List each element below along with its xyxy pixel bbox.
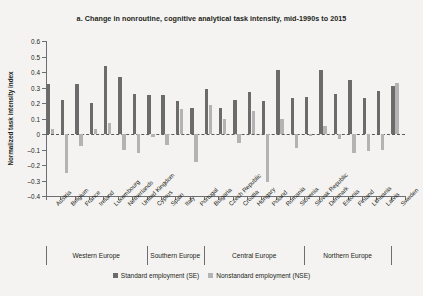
y-tick-label: –0.4 bbox=[28, 193, 40, 200]
bar-group bbox=[247, 41, 261, 196]
region-separator bbox=[391, 246, 392, 265]
y-tick-label: 0.6 bbox=[31, 38, 40, 45]
legend-label: Standard employment (SE) bbox=[121, 272, 199, 279]
bar bbox=[348, 80, 351, 134]
bar bbox=[90, 103, 93, 134]
region-label: Central Europe bbox=[204, 252, 305, 259]
bar bbox=[319, 70, 322, 134]
plot-area: 0.60.50.40.30.20.10–0.1–0.2–0.3–0.4 bbox=[46, 41, 405, 196]
region-label: Southern Europe bbox=[147, 252, 204, 259]
bar-group bbox=[362, 41, 376, 196]
bar bbox=[323, 126, 326, 134]
bar bbox=[137, 134, 140, 153]
bar bbox=[151, 134, 154, 137]
bar-group bbox=[376, 41, 390, 196]
bar bbox=[219, 108, 222, 134]
legend-item: Standard employment (SE) bbox=[113, 272, 199, 279]
bar bbox=[176, 101, 179, 134]
bar bbox=[338, 134, 341, 139]
bar bbox=[133, 94, 136, 134]
bar bbox=[205, 89, 208, 134]
bar bbox=[363, 98, 366, 134]
bar bbox=[118, 77, 121, 134]
y-tick-label: 0.4 bbox=[31, 69, 40, 76]
bar bbox=[367, 134, 370, 151]
bar-group bbox=[290, 41, 304, 196]
bar-group bbox=[391, 41, 405, 196]
bar bbox=[280, 119, 283, 135]
bar-group bbox=[75, 41, 89, 196]
bar bbox=[237, 134, 240, 143]
bar bbox=[194, 134, 197, 162]
bar bbox=[381, 134, 384, 150]
bar bbox=[108, 123, 111, 134]
bar-group bbox=[103, 41, 117, 196]
bar-group bbox=[175, 41, 189, 196]
bar-group bbox=[60, 41, 74, 196]
bar bbox=[252, 111, 255, 134]
y-axis-title: Normalized task intensity index bbox=[6, 41, 16, 196]
bar bbox=[147, 95, 150, 134]
bar-group bbox=[319, 41, 333, 196]
bar bbox=[309, 134, 312, 136]
bar bbox=[65, 134, 68, 173]
bar bbox=[122, 134, 125, 150]
bar-group bbox=[89, 41, 103, 196]
bar-group bbox=[118, 41, 132, 196]
legend-item: Nonstandard employment (NSE) bbox=[208, 272, 310, 279]
y-tick-label: 0 bbox=[36, 131, 40, 138]
bar bbox=[47, 84, 50, 134]
region-label: Western Europe bbox=[46, 252, 147, 259]
bar bbox=[395, 83, 398, 134]
bar bbox=[295, 134, 298, 148]
bar-group bbox=[204, 41, 218, 196]
bar bbox=[190, 108, 193, 134]
bar bbox=[391, 86, 394, 134]
bar-group bbox=[190, 41, 204, 196]
bar bbox=[276, 70, 279, 134]
bar bbox=[75, 84, 78, 134]
chart-legend: Standard employment (SE)Nonstandard empl… bbox=[0, 272, 423, 279]
legend-label: Nonstandard employment (NSE) bbox=[216, 272, 310, 279]
region-band: Western EuropeSouthern EuropeCentral Eur… bbox=[46, 246, 405, 265]
bar-group bbox=[147, 41, 161, 196]
chart-title: a. Change in nonroutine, cognitive analy… bbox=[0, 14, 423, 23]
y-tick-label: –0.3 bbox=[28, 177, 40, 184]
bar bbox=[51, 129, 54, 134]
y-tick-label: 0.2 bbox=[31, 100, 40, 107]
bar bbox=[266, 134, 269, 182]
bar-group bbox=[261, 41, 275, 196]
y-tick-label: 0.5 bbox=[31, 53, 40, 60]
bar-group bbox=[348, 41, 362, 196]
bar-group bbox=[276, 41, 290, 196]
bar bbox=[291, 98, 294, 134]
bar bbox=[79, 134, 82, 146]
bar bbox=[209, 105, 212, 134]
y-tick-label: –0.1 bbox=[28, 146, 40, 153]
bar-group bbox=[132, 41, 146, 196]
legend-swatch-nse bbox=[208, 273, 213, 278]
bar bbox=[334, 94, 337, 134]
bar bbox=[165, 134, 168, 145]
bar bbox=[61, 100, 64, 134]
bar-group bbox=[46, 41, 60, 196]
bar bbox=[104, 66, 107, 134]
bar bbox=[305, 97, 308, 134]
bar bbox=[180, 109, 183, 134]
bar bbox=[223, 119, 226, 135]
y-tick-label: 0.1 bbox=[31, 115, 40, 122]
legend-swatch-se bbox=[113, 273, 118, 278]
bar bbox=[262, 101, 265, 134]
bar-group bbox=[218, 41, 232, 196]
bar bbox=[161, 95, 164, 134]
bar bbox=[377, 91, 380, 134]
bar-group bbox=[304, 41, 318, 196]
bar bbox=[352, 134, 355, 153]
chart-figure: a. Change in nonroutine, cognitive analy… bbox=[0, 0, 423, 296]
x-tick bbox=[46, 196, 47, 200]
region-label: Northern Europe bbox=[304, 252, 390, 259]
bar bbox=[233, 100, 236, 134]
bar bbox=[94, 129, 97, 134]
y-tick-label: 0.3 bbox=[31, 84, 40, 91]
y-tick-label: –0.2 bbox=[28, 162, 40, 169]
